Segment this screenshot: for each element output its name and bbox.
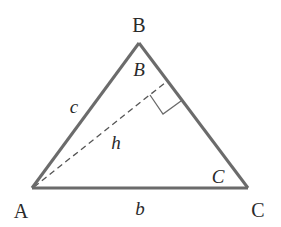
triangle-diagram: B A C B C c b h bbox=[0, 0, 281, 227]
side-a bbox=[139, 43, 248, 188]
side-label-c: c bbox=[70, 96, 79, 117]
angle-label-b: B bbox=[133, 59, 145, 80]
altitude-label-h: h bbox=[111, 132, 121, 153]
vertex-label-a: A bbox=[14, 200, 29, 222]
side-label-b: b bbox=[135, 198, 145, 219]
right-angle-marker bbox=[150, 95, 181, 114]
vertex-label-c: C bbox=[251, 199, 264, 221]
angle-label-c: C bbox=[212, 166, 225, 187]
vertex-label-b: B bbox=[132, 14, 145, 36]
